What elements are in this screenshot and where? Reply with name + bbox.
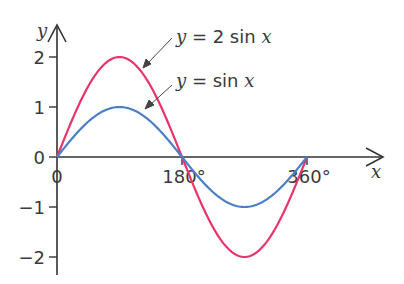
x-tick-marks (182, 157, 307, 165)
sine-graph: −2−1012 0180°360° y x y = 2 sin x y = si… (0, 0, 404, 284)
y-axis-label: y (36, 20, 48, 41)
y-tick-label: −2 (18, 247, 45, 268)
y-tick-labels: −2−1012 (18, 47, 45, 268)
y-tick-label: −1 (18, 197, 45, 218)
annotation-2sinx: y = 2 sin x (175, 26, 272, 47)
leader-arrow-icon (145, 100, 154, 109)
leader-line-sinx (150, 85, 172, 105)
leader-arrow-icon (143, 59, 151, 68)
y-tick-label: 2 (34, 47, 45, 68)
y-tick-label: 0 (34, 147, 45, 168)
y-tick-label: 1 (34, 97, 45, 118)
annotation-leaders (143, 38, 172, 109)
y-tick-marks (49, 57, 57, 257)
axes (48, 25, 383, 275)
x-tick-label: 0 (51, 166, 62, 187)
annotation-sinx: y = sin x (175, 70, 254, 91)
leader-line-2sinx (147, 38, 172, 64)
x-axis-label: x (371, 161, 381, 182)
x-tick-label: 360° (287, 166, 330, 187)
